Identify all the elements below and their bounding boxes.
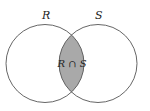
intersection-label: R ∩ S [56,58,86,69]
set-r-label: R [41,9,50,22]
venn-diagram: R S R ∩ S [0,0,150,111]
set-s-label: S [95,9,103,22]
